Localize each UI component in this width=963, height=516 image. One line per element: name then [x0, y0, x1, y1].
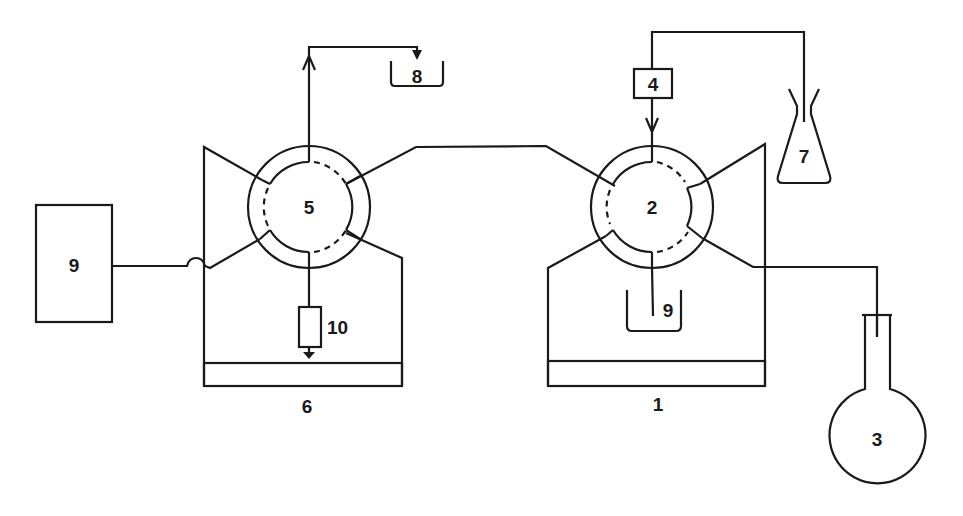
- component-3-round-flask: 3: [829, 315, 925, 483]
- component-2-valve: 2: [591, 146, 713, 268]
- component-1-stand: 1: [548, 144, 765, 415]
- component-6-stand: 6: [204, 147, 402, 417]
- component-9-box: 9: [36, 205, 112, 322]
- component-8-waste-bottom: 9: [627, 268, 681, 331]
- label-10: 10: [327, 317, 348, 338]
- ground-icon: [303, 352, 315, 359]
- connection-5-to-2: [346, 146, 615, 186]
- component-5-valve: 5: [248, 146, 370, 268]
- label-2: 2: [647, 197, 658, 218]
- component-10-column: 10: [299, 268, 348, 359]
- connection-2-to-3: [702, 238, 877, 336]
- label-3: 3: [872, 429, 883, 450]
- apparatus-diagram: 9 6 5 8: [0, 0, 963, 516]
- label-4: 4: [648, 74, 659, 95]
- label-9: 9: [69, 255, 80, 276]
- label-1: 1: [653, 394, 664, 415]
- connection-9-to-5: [112, 239, 260, 268]
- label-8-bottom: 9: [663, 300, 674, 321]
- label-6: 6: [302, 396, 313, 417]
- component-4-box: 4: [634, 69, 672, 98]
- label-8-top: 8: [412, 66, 423, 87]
- label-5: 5: [304, 197, 315, 218]
- connection-5-to-8a: [309, 47, 417, 146]
- arrow-down-icon: [412, 50, 422, 60]
- connection-7-to-4: [652, 32, 804, 122]
- label-7: 7: [799, 146, 810, 167]
- component-8-waste-top: 8: [391, 61, 443, 87]
